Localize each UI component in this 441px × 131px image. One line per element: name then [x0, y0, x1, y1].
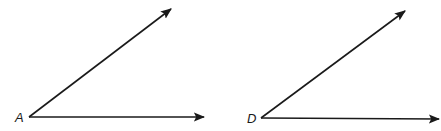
angles-diagram: A D [0, 0, 441, 131]
ray-d-upper [261, 11, 405, 118]
vertex-label-d: D [247, 111, 256, 126]
angle-a: A [14, 9, 204, 125]
vertex-label-a: A [14, 110, 24, 125]
ray-d-horizontal [261, 118, 439, 119]
angle-d: D [247, 11, 439, 126]
ray-a-upper [29, 9, 171, 117]
